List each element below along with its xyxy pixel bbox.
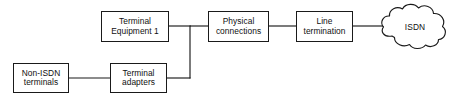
node-label-line: termination <box>304 27 346 36</box>
isdn-block-diagram: Terminal Equipment 1 Physical connection… <box>0 0 453 96</box>
node-non-isdn-terminals[interactable]: Non-ISDN terminals <box>13 63 69 93</box>
node-line-termination[interactable]: Line termination <box>296 11 353 42</box>
node-isdn-cloud-label: ISDN <box>381 22 449 32</box>
node-label-line: connections <box>216 27 261 36</box>
node-label-line: terminals <box>24 78 58 87</box>
node-terminal-equipment-1[interactable]: Terminal Equipment 1 <box>101 11 169 42</box>
node-terminal-adapters[interactable]: Terminal adapters <box>110 63 167 93</box>
node-physical-connections[interactable]: Physical connections <box>208 11 269 42</box>
node-label-line: Equipment 1 <box>111 27 159 36</box>
node-label-line: adapters <box>122 78 155 87</box>
